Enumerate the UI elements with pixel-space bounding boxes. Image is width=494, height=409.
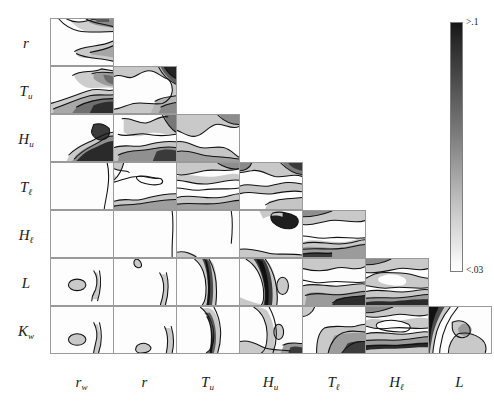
panel-kw-hu[interactable] xyxy=(239,306,303,354)
col-label-tu: Tu xyxy=(176,375,239,390)
col-label-tl: Tℓ xyxy=(302,375,365,390)
panel-kw-l[interactable] xyxy=(428,306,492,354)
col-label-rw: rw xyxy=(50,375,113,390)
row-label-text: r xyxy=(23,35,29,51)
row-label-tu: Tu xyxy=(4,84,48,99)
col-label-l: L xyxy=(428,375,491,390)
panel-tu-r[interactable] xyxy=(113,66,177,114)
row-label-hl: Hℓ xyxy=(4,228,48,243)
col-label-hu: Hu xyxy=(239,375,302,390)
panel-tl-tu[interactable] xyxy=(176,162,240,210)
col-label-r: r xyxy=(113,375,176,390)
colorbar-bottom-label: <.03 xyxy=(466,265,483,275)
panel-l-hl[interactable] xyxy=(365,258,429,306)
row-label-kw: Kw xyxy=(4,324,48,339)
row-label-l: L xyxy=(4,276,48,291)
panel-hl-rw[interactable] xyxy=(50,210,114,258)
panel-l-tu[interactable] xyxy=(176,258,240,306)
panel-hu-r[interactable] xyxy=(113,114,177,162)
panel-kw-rw[interactable] xyxy=(50,306,114,354)
panel-r-rw[interactable] xyxy=(50,18,114,66)
panel-kw-r[interactable] xyxy=(113,306,177,354)
colorbar-top-label: >.1 xyxy=(466,17,478,27)
panel-kw-tl[interactable] xyxy=(302,306,366,354)
panel-tl-rw[interactable] xyxy=(50,162,114,210)
row-label-hu: Hu xyxy=(4,132,48,147)
panel-l-rw[interactable] xyxy=(50,258,114,306)
panel-hl-r[interactable] xyxy=(113,210,177,258)
panel-tu-rw[interactable] xyxy=(50,66,114,114)
panel-l-tl[interactable] xyxy=(302,258,366,306)
panel-hl-tu[interactable] xyxy=(176,210,240,258)
panel-tl-r[interactable] xyxy=(113,162,177,210)
panel-kw-tu[interactable] xyxy=(176,306,240,354)
sensitivity-colorbar xyxy=(450,22,463,272)
panel-tl-hu[interactable] xyxy=(239,162,303,210)
col-label-hl: Hℓ xyxy=(365,375,428,390)
panel-hl-tl[interactable] xyxy=(302,210,366,258)
panel-kw-hl[interactable] xyxy=(365,306,429,354)
panel-hl-hu[interactable] xyxy=(239,210,303,258)
row-label-tl: Tℓ xyxy=(4,180,48,195)
panel-l-hu[interactable] xyxy=(239,258,303,306)
row-label-r: r xyxy=(4,36,48,51)
panel-hu-rw[interactable] xyxy=(50,114,114,162)
contour-matrix-figure: r Tu Hu Tℓ Hℓ L Kw rw r Tu Hu Tℓ Hℓ L xyxy=(0,0,494,409)
panel-hu-tu[interactable] xyxy=(176,114,240,162)
panel-l-r[interactable] xyxy=(113,258,177,306)
